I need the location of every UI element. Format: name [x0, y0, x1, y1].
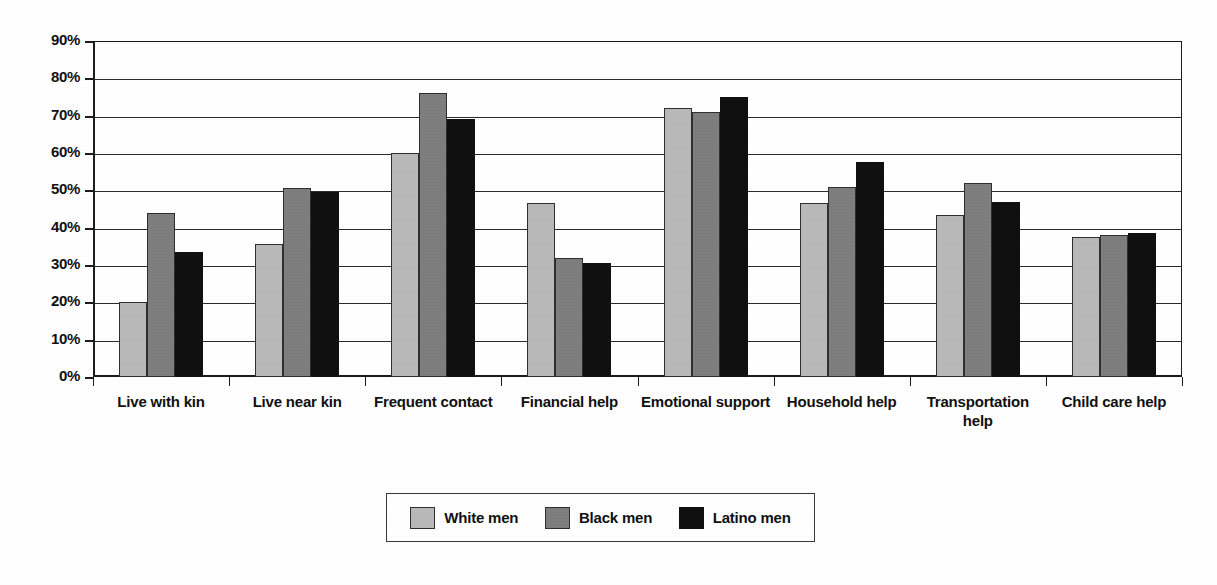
bar-latino-men-child-care-help	[1128, 233, 1156, 377]
legend-swatch-black-men	[545, 507, 570, 529]
bar-black-men-financial-help	[555, 258, 583, 377]
bar-latino-men-household-help	[856, 162, 884, 377]
bar-white-men-live-near-kin	[255, 244, 283, 377]
y-axis-tick-label: 10%	[0, 330, 80, 347]
y-axis-tick-label: 40%	[0, 218, 80, 235]
y-axis: 90%80%70%60%50%40%30%20%10%0%	[0, 0, 86, 585]
legend-label: Latino men	[713, 509, 791, 526]
x-axis-labels: Live with kinLive near kinFrequent conta…	[93, 392, 1182, 452]
bar-latino-men-live-near-kin	[311, 192, 339, 377]
bar-group	[255, 41, 339, 377]
legend-label: Black men	[579, 509, 652, 526]
bar-black-men-emotional-support	[692, 112, 720, 377]
bar-latino-men-transportation-help	[992, 202, 1020, 377]
y-axis-tick-label: 80%	[0, 68, 80, 85]
bar-group	[391, 41, 475, 377]
x-axis-category-label: Live near kin	[229, 392, 365, 411]
bar-group	[800, 41, 884, 377]
y-axis-tick-label: 50%	[0, 180, 80, 197]
x-axis-tick-mark	[501, 377, 502, 386]
legend-entry: White men	[410, 507, 518, 529]
bar-chart-figure: 90%80%70%60%50%40%30%20%10%0% Live with …	[0, 0, 1217, 585]
bar-black-men-household-help	[828, 187, 856, 377]
x-axis-tick-mark	[365, 377, 366, 386]
y-axis-tick-label: 0%	[0, 367, 80, 384]
bar-white-men-child-care-help	[1072, 237, 1100, 377]
x-axis-category-label: Child care help	[1046, 392, 1182, 411]
bars-layer	[93, 41, 1182, 377]
bar-group	[936, 41, 1020, 377]
x-axis-tick-mark	[910, 377, 911, 386]
x-axis-tick-mark	[229, 377, 230, 386]
bar-white-men-household-help	[800, 203, 828, 377]
legend-swatch-latino-men	[679, 507, 704, 529]
bar-latino-men-financial-help	[583, 263, 611, 377]
legend-entry: Latino men	[679, 507, 791, 529]
bar-black-men-child-care-help	[1100, 235, 1128, 377]
x-axis-tick-mark	[1046, 377, 1047, 386]
bar-group	[119, 41, 203, 377]
bar-white-men-live-with-kin	[119, 302, 147, 377]
x-axis-category-label: Transportation help	[910, 392, 1046, 430]
legend-entry: Black men	[545, 507, 652, 529]
x-axis-tick-mark	[638, 377, 639, 386]
bar-group	[527, 41, 611, 377]
y-axis-tick-label: 20%	[0, 292, 80, 309]
x-axis-tick-mark	[774, 377, 775, 386]
bar-white-men-transportation-help	[936, 215, 964, 377]
x-axis-category-label: Financial help	[501, 392, 637, 411]
x-axis-tick-mark	[1182, 377, 1183, 386]
x-axis-category-label: Emotional support	[638, 392, 774, 411]
chart-legend: White menBlack menLatino men	[386, 493, 815, 542]
bar-black-men-transportation-help	[964, 183, 992, 377]
bar-group	[1072, 41, 1156, 377]
x-axis-category-label: Frequent contact	[365, 392, 501, 411]
bar-latino-men-frequent-contact	[447, 119, 475, 377]
bar-black-men-frequent-contact	[419, 93, 447, 377]
bar-latino-men-emotional-support	[720, 97, 748, 377]
y-axis-tick-label: 70%	[0, 106, 80, 123]
bar-black-men-live-near-kin	[283, 188, 311, 377]
legend-swatch-white-men	[410, 507, 435, 529]
bar-white-men-emotional-support	[664, 108, 692, 377]
x-axis-category-label: Live with kin	[93, 392, 229, 411]
bar-latino-men-live-with-kin	[175, 252, 203, 377]
y-axis-tick-label: 90%	[0, 31, 80, 48]
bar-white-men-financial-help	[527, 203, 555, 377]
x-axis-ticks	[93, 377, 1182, 387]
x-axis-tick-mark	[93, 377, 94, 386]
bar-white-men-frequent-contact	[391, 153, 419, 377]
bar-group	[664, 41, 748, 377]
y-axis-tick-label: 30%	[0, 255, 80, 272]
legend-label: White men	[444, 509, 518, 526]
bar-black-men-live-with-kin	[147, 213, 175, 377]
y-axis-tick-label: 60%	[0, 143, 80, 160]
x-axis-category-label: Household help	[774, 392, 910, 411]
